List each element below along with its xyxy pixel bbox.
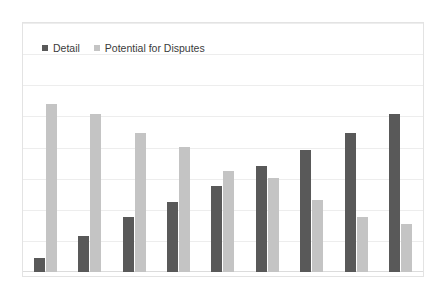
legend-label-potential-for-disputes: Potential for Disputes xyxy=(105,43,205,54)
bar-group xyxy=(123,23,146,272)
bars-layer xyxy=(23,23,423,272)
bar-chart-figure: Detail Potential for Disputes xyxy=(0,0,446,295)
legend-label-detail: Detail xyxy=(53,43,80,54)
legend-swatch-icon xyxy=(94,45,100,51)
bar-detail[interactable] xyxy=(211,186,222,272)
bar-detail[interactable] xyxy=(389,114,400,272)
bar-detail[interactable] xyxy=(345,133,356,272)
bar-detail[interactable] xyxy=(78,236,89,272)
legend-swatch-icon xyxy=(42,45,48,51)
bar-detail[interactable] xyxy=(167,202,178,272)
bar-potential-for-disputes[interactable] xyxy=(312,200,323,272)
bar-detail[interactable] xyxy=(256,166,267,272)
bar-potential-for-disputes[interactable] xyxy=(357,217,368,272)
bar-group xyxy=(167,23,190,272)
bar-detail[interactable] xyxy=(123,217,134,272)
bar-group xyxy=(34,23,57,272)
bar-group xyxy=(345,23,368,272)
bar-group xyxy=(300,23,323,272)
legend-item-detail[interactable]: Detail xyxy=(42,43,80,54)
bar-potential-for-disputes[interactable] xyxy=(90,114,101,272)
bar-potential-for-disputes[interactable] xyxy=(401,224,412,272)
bar-group xyxy=(389,23,412,272)
bar-detail[interactable] xyxy=(34,258,45,272)
bar-group xyxy=(256,23,279,272)
bar-detail[interactable] xyxy=(300,150,311,272)
bar-group xyxy=(211,23,234,272)
bar-potential-for-disputes[interactable] xyxy=(268,178,279,272)
plot-area xyxy=(23,23,423,276)
bar-potential-for-disputes[interactable] xyxy=(223,171,234,272)
bar-potential-for-disputes[interactable] xyxy=(135,133,146,272)
bar-potential-for-disputes[interactable] xyxy=(46,104,57,272)
bar-potential-for-disputes[interactable] xyxy=(179,147,190,272)
legend-item-potential-for-disputes[interactable]: Potential for Disputes xyxy=(94,43,205,54)
bar-group xyxy=(78,23,101,272)
chart-legend: Detail Potential for Disputes xyxy=(42,40,205,56)
